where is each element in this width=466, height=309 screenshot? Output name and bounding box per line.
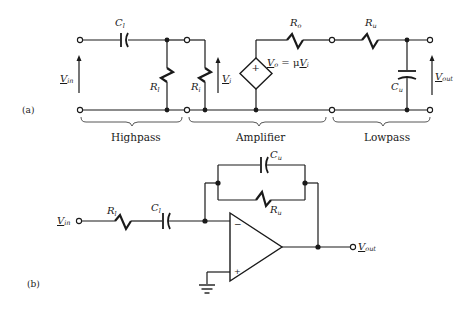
resistor-r-u-a [362, 34, 378, 48]
figure-b: (b) Vin Rl Cl Cu Ru [27, 149, 376, 293]
svg-text:Vout: Vout [358, 241, 376, 253]
opamp-plus: + [234, 267, 241, 276]
svg-text:Vin: Vin [60, 73, 74, 85]
label-highpass: Highpass [111, 131, 161, 143]
terminal-vin-b [76, 218, 81, 223]
svg-text:Cu: Cu [270, 149, 282, 162]
label-lowpass: Lowpass [364, 131, 410, 143]
circuit-diagram: (a) Cl Rl Ri [0, 0, 466, 309]
terminal-vout-bottom [427, 107, 432, 112]
brace-lowpass [333, 117, 430, 126]
resistor-r-l-b [115, 215, 131, 229]
terminal-vin-bottom [77, 107, 82, 112]
resistor-r-o [287, 34, 303, 48]
svg-text:Ro: Ro [289, 17, 302, 30]
op-amp: − + [230, 213, 282, 281]
resistor-r-u-b [256, 192, 271, 206]
dependent-voltage-source: + [240, 40, 272, 110]
terminal-vout-top [427, 37, 432, 42]
terminal-vin-top [77, 37, 82, 42]
svg-text:Cu: Cu [391, 81, 403, 94]
svg-text:Cl: Cl [151, 202, 161, 215]
svg-text:Rl: Rl [149, 81, 160, 94]
resistor-r-i [199, 68, 211, 82]
capacitor-c-l-a [121, 33, 128, 47]
svg-text:Cl: Cl [115, 17, 125, 30]
svg-text:Ru: Ru [364, 17, 377, 30]
svg-text:Vi: Vi [222, 73, 231, 85]
vout-arrow [430, 55, 435, 95]
svg-text:+: + [252, 62, 260, 73]
svg-text:Rl: Rl [106, 205, 117, 218]
resistor-r-l-a [161, 68, 173, 82]
label-amplifier: Amplifier [235, 131, 286, 143]
vi-arrow [216, 57, 221, 93]
figure-b-tag: (b) [27, 279, 40, 289]
terminal-vout-b [350, 244, 355, 249]
svg-text:Ri: Ri [190, 81, 201, 94]
vin-arrow [77, 55, 82, 93]
svg-text:Vin: Vin [57, 215, 71, 227]
brace-highpass [81, 117, 182, 126]
opamp-minus: − [234, 219, 242, 229]
brace-amplifier [189, 117, 326, 126]
figure-a: (a) Cl Rl Ri [22, 17, 453, 143]
source-equation: Vo = μVi [267, 57, 309, 69]
figure-a-tag: (a) [22, 105, 34, 115]
svg-text:Ru: Ru [269, 204, 282, 217]
ground-icon [199, 285, 215, 293]
svg-text:Vout: Vout [435, 71, 453, 83]
